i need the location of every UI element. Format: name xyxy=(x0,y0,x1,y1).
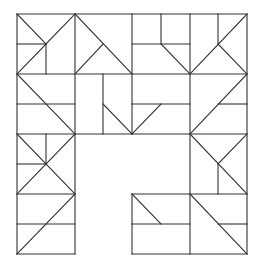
pattern-line xyxy=(46,14,75,44)
pattern-line xyxy=(161,44,190,74)
pattern-line xyxy=(132,194,161,224)
pattern-line xyxy=(75,44,103,74)
pattern-line xyxy=(218,44,247,74)
pattern-line xyxy=(103,104,132,134)
pattern-line xyxy=(132,104,161,134)
pattern-line xyxy=(17,14,46,44)
pattern-line xyxy=(17,44,46,74)
tile-pattern-diagram xyxy=(0,0,261,270)
pattern-line xyxy=(218,134,247,164)
